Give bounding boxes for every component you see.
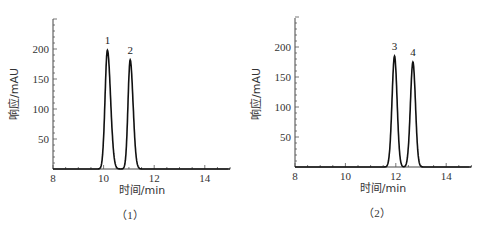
y-tick-label: 200: [275, 41, 292, 53]
x-axis-title: 时间/min: [119, 184, 165, 197]
x-tick-label: 8: [292, 170, 298, 182]
chart-caption-1: （1）: [100, 206, 160, 222]
x-tick-label: 12: [390, 170, 401, 182]
y-axis-title: 响应/mAU: [249, 68, 263, 120]
chromatogram-1: 501001502008101214时间/min响应/mAU12: [0, 0, 242, 230]
x-tick-label: 10: [98, 172, 110, 184]
chart-panel-2: 501001502008101214时间/min响应/mAU34 （2）: [242, 0, 484, 230]
x-tick-label: 12: [149, 172, 160, 184]
chromatogram-2: 501001502008101214时间/min响应/mAU34: [242, 0, 485, 230]
x-tick-label: 14: [441, 170, 453, 182]
peak-label: 3: [392, 40, 398, 52]
y-tick-label: 150: [33, 73, 50, 85]
y-tick-label: 100: [275, 101, 292, 113]
axes: 501001502008101214时间/min响应/mAU: [249, 17, 471, 195]
x-axis-title: 时间/min: [360, 182, 406, 195]
chromatogram-trace: [295, 56, 471, 167]
peak-label: 4: [410, 46, 416, 58]
axes: 501001502008101214时间/min响应/mAU: [7, 19, 230, 197]
chart-panel-1: 501001502008101214时间/min响应/mAU12 （1）: [0, 0, 242, 230]
y-tick-label: 50: [38, 133, 50, 145]
chart-caption-2: （2）: [347, 204, 407, 220]
y-axis-title: 响应/mAU: [7, 68, 21, 120]
y-tick-label: 100: [33, 103, 50, 115]
peak-label: 1: [105, 34, 111, 46]
y-tick-label: 50: [280, 131, 292, 143]
x-tick-label: 8: [50, 172, 56, 184]
peak-label: 2: [127, 44, 133, 56]
y-tick-label: 150: [275, 71, 292, 83]
chromatogram-trace: [53, 50, 230, 169]
x-tick-label: 14: [199, 172, 211, 184]
y-tick-label: 200: [33, 43, 50, 55]
x-tick-label: 10: [340, 170, 352, 182]
